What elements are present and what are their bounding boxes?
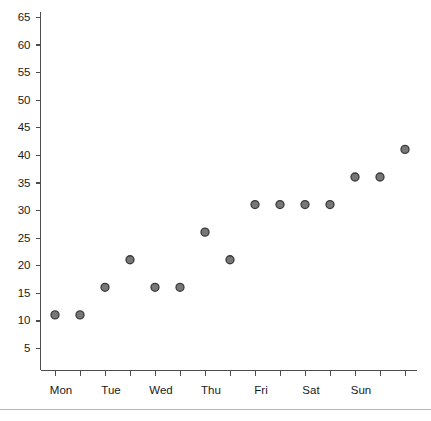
data-point xyxy=(401,145,409,153)
data-point xyxy=(151,283,159,291)
y-tick-label: 10 xyxy=(18,314,31,326)
data-point-group xyxy=(51,145,409,319)
x-tick-label: Sat xyxy=(302,384,320,396)
y-tick-label: 20 xyxy=(18,259,31,271)
y-tick-label: 45 xyxy=(18,121,31,133)
y-tick-label: 60 xyxy=(18,39,31,51)
x-tick-label: Tue xyxy=(101,384,120,396)
y-tick-label: 40 xyxy=(18,149,31,161)
data-point xyxy=(276,201,284,209)
y-tick-label: 5 xyxy=(24,342,30,354)
data-point xyxy=(351,173,359,181)
y-tick-label: 35 xyxy=(18,177,31,189)
y-tick-label: 65 xyxy=(18,11,31,23)
x-tick-group: MonTueWedThuFriSatSun xyxy=(50,371,406,396)
x-tick-label: Wed xyxy=(149,384,172,396)
data-point xyxy=(301,201,309,209)
y-tick-label: 55 xyxy=(18,66,31,78)
y-axis: 5101520253035404550556065 xyxy=(18,11,41,370)
data-point xyxy=(126,256,134,264)
x-tick-label: Sun xyxy=(351,384,371,396)
data-point xyxy=(376,173,384,181)
x-axis: MonTueWedThuFriSatSun xyxy=(41,371,418,396)
x-tick-label: Thu xyxy=(201,384,221,396)
data-point xyxy=(251,201,259,209)
data-point xyxy=(101,283,109,291)
y-tick-group: 5101520253035404550556065 xyxy=(18,11,41,354)
chart-canvas: 5101520253035404550556065 MonTueWedThuFr… xyxy=(0,0,431,421)
data-point xyxy=(76,311,84,319)
data-point xyxy=(226,256,234,264)
data-point xyxy=(51,311,59,319)
y-tick-label: 15 xyxy=(18,287,31,299)
data-point xyxy=(176,283,184,291)
y-tick-label: 25 xyxy=(18,232,31,244)
data-point xyxy=(326,201,334,209)
y-tick-label: 50 xyxy=(18,94,31,106)
y-tick-label: 30 xyxy=(18,204,31,216)
scatter-chart: 5101520253035404550556065 MonTueWedThuFr… xyxy=(0,0,431,421)
x-tick-label: Fri xyxy=(254,384,267,396)
data-point xyxy=(201,228,209,236)
x-tick-label: Mon xyxy=(50,384,72,396)
